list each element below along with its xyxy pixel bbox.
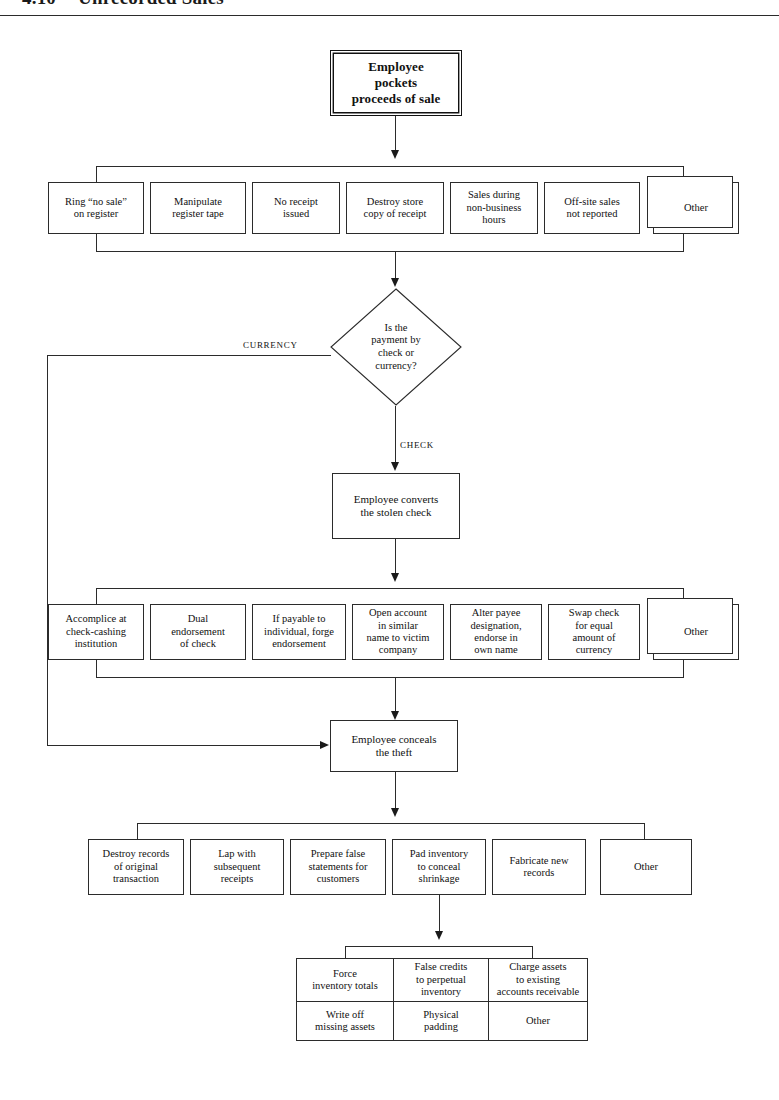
connector-conceal-down: [395, 772, 396, 810]
connector-pad-inventory-down: [439, 895, 440, 933]
connector-decision-to-convert: [395, 406, 396, 464]
row1-box-5: Sales duringnon-businesshours: [450, 182, 538, 234]
row4-cell-2-label: False creditsto perpetualinventory: [415, 961, 468, 998]
row2-box-4-label: Open accountin similarname to victimcomp…: [367, 607, 430, 657]
row4-cell-2: False creditsto perpetualinventory: [393, 958, 489, 1002]
row3-bracket-top-right-stub: [644, 823, 645, 839]
row2-box-1: Accomplice atcheck-cashinginstitution: [48, 604, 144, 660]
row1-box-4: Destroy storecopy of receipt: [346, 182, 444, 234]
flowchart-page: 4.10Unrecorded Sales Employeepocketsproc…: [0, 0, 779, 1100]
connector-row2-to-conceal: [395, 677, 396, 713]
row3-bracket-top: [137, 823, 645, 824]
row4-cell-3: Charge assetsto existingaccounts receiva…: [488, 958, 588, 1002]
row2-box-3: If payable toindividual, forgeendorsemen…: [252, 604, 346, 660]
row4-cell-4-label: Write offmissing assets: [315, 1009, 375, 1034]
row2-box-2-label: Dualendorsementof check: [171, 613, 225, 650]
decision-payment-type: Is thepayment bycheck orcurrency?: [330, 288, 462, 406]
row2-bracket-bottom: [96, 677, 684, 678]
row3-bracket-top-left-stub: [137, 823, 138, 839]
row2-box-2: Dualendorsementof check: [150, 604, 246, 660]
node-employee-conceals-theft: Employee concealsthe theft: [330, 720, 458, 772]
row2-box-4: Open accountin similarname to victimcomp…: [352, 604, 444, 660]
header-rule: [0, 15, 779, 16]
row3-box-5-label: Fabricate newrecords: [509, 855, 568, 880]
row4-cell-4: Write offmissing assets: [296, 1001, 394, 1041]
row1-bracket-top: [96, 166, 684, 167]
row1-box-other: Other: [653, 182, 739, 234]
row3-box-3-label: Prepare falsestatements forcustomers: [308, 848, 367, 885]
row1-box-3: No receiptissued: [252, 182, 340, 234]
row4-cell-5: Physicalpadding: [393, 1001, 489, 1041]
row3-box-2-label: Lap withsubsequentreceipts: [214, 848, 261, 885]
decision-label: Is thepayment bycheck orcurrency?: [371, 322, 420, 372]
arrow-to-conceal: [391, 711, 399, 720]
running-head-number: 4.10: [22, 0, 56, 8]
row3-box-other: Other: [600, 839, 692, 895]
branch-label-currency: CURRENCY: [243, 340, 298, 350]
node-label: Employee convertsthe stolen check: [354, 493, 439, 519]
row4-cell-5-label: Physicalpadding: [423, 1009, 459, 1034]
row1-box-2-label: Manipulateregister tape: [172, 196, 224, 221]
connector-convert-down: [395, 539, 396, 575]
row2-bracket-top: [96, 588, 684, 589]
row1-stub-top-1: [96, 166, 97, 182]
arrow-to-row4: [435, 931, 443, 940]
row1-box-1: Ring “no sale”on register: [48, 182, 144, 234]
row4-bracket-top-right-stub: [532, 946, 533, 958]
row4-cell-1-label: Forceinventory totals: [312, 968, 378, 993]
node-label: Employee concealsthe theft: [351, 733, 436, 759]
currency-line-vertical: [47, 355, 48, 745]
row1-box-6: Off-site salesnot reported: [544, 182, 640, 234]
arrow-to-row3: [391, 808, 399, 817]
connector-start-down: [395, 116, 396, 152]
row2-bracket-top-left-stub: [96, 588, 97, 604]
row1-box-2: Manipulateregister tape: [150, 182, 246, 234]
row4-cell-6: Other: [488, 1001, 588, 1041]
row3-box-4: Pad inventoryto concealshrinkage: [392, 839, 486, 895]
row2-box-other-label: Other: [684, 626, 708, 638]
row2-box-5: Alter payeedesignation,endorse inown nam…: [450, 604, 542, 660]
row1-bracket-bottom-right-stub: [683, 234, 684, 251]
row4-cell-6-label: Other: [526, 1015, 550, 1027]
running-head: 4.10Unrecorded Sales: [22, 0, 224, 9]
row1-bracket-bottom: [96, 251, 684, 252]
row2-box-6-label: Swap checkfor equalamount ofcurrency: [569, 607, 619, 657]
row1-box-5-label: Sales duringnon-businesshours: [467, 189, 522, 226]
row4-bracket-top-left-stub: [345, 946, 346, 958]
row3-box-other-label: Other: [634, 861, 658, 873]
arrow-to-decision: [391, 278, 399, 287]
running-head-title: Unrecorded Sales: [78, 0, 224, 8]
node-employee-pockets-proceeds: Employeepocketsproceeds of sale: [330, 50, 462, 116]
row1-box-other-label: Other: [684, 202, 708, 214]
row2-bracket-bottom-left-stub: [96, 660, 97, 677]
row4-cell-3-label: Charge assetsto existingaccounts receiva…: [497, 961, 580, 998]
row3-box-5: Fabricate newrecords: [492, 839, 586, 895]
row4-bracket-top: [345, 946, 533, 947]
row1-box-4-label: Destroy storecopy of receipt: [364, 196, 427, 221]
currency-line-horizontal-bottom: [47, 745, 322, 746]
row3-box-1-label: Destroy recordsof originaltransaction: [103, 848, 170, 885]
row3-box-4-label: Pad inventoryto concealshrinkage: [410, 848, 469, 885]
row2-bracket-bottom-right-stub: [683, 660, 684, 677]
row3-box-1: Destroy recordsof originaltransaction: [88, 839, 184, 895]
row1-box-6-label: Off-site salesnot reported: [564, 196, 620, 221]
row2-box-6: Swap checkfor equalamount ofcurrency: [548, 604, 640, 660]
node-employee-converts-check: Employee convertsthe stolen check: [332, 473, 460, 539]
row2-box-3-label: If payable toindividual, forgeendorsemen…: [264, 613, 334, 650]
node-label: Employeepocketsproceeds of sale: [352, 59, 441, 107]
row2-box-other: Other: [653, 604, 739, 660]
arrow-to-convert: [391, 462, 399, 471]
row3-box-2: Lap withsubsequentreceipts: [190, 839, 284, 895]
currency-line-horizontal-top: [47, 355, 331, 356]
branch-label-check: CHECK: [400, 440, 434, 450]
arrow-to-row1: [391, 150, 399, 159]
row4-cell-1: Forceinventory totals: [296, 958, 394, 1002]
row1-bracket-bottom-left-stub: [96, 234, 97, 251]
arrow-currency-into-conceal: [320, 741, 329, 749]
row2-box-5-label: Alter payeedesignation,endorse inown nam…: [470, 607, 521, 657]
row1-box-3-label: No receiptissued: [274, 196, 318, 221]
connector-row1-to-decision: [395, 251, 396, 280]
row1-box-1-label: Ring “no sale”on register: [65, 196, 127, 221]
row3-box-3: Prepare falsestatements forcustomers: [290, 839, 386, 895]
arrow-to-row2: [391, 573, 399, 582]
